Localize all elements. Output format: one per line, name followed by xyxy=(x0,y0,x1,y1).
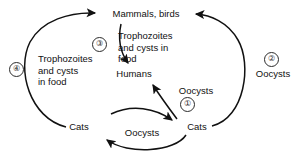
route-marker-3-icon: ③ xyxy=(92,37,107,52)
node-cats-right: Cats xyxy=(178,121,216,133)
edge-label-oocysts-center: Oocysts xyxy=(172,85,220,97)
route-marker-4-icon: ④ xyxy=(9,62,24,77)
edge-label-trophozoites-cysts-in-food-left: Trophozoites and cysts in food xyxy=(38,53,110,88)
transmission-cycle-diagram: Mammals, birds Humans Cats Cats Trophozo… xyxy=(0,0,300,165)
edge-label-oocysts-bottom: Oocysts xyxy=(116,127,168,139)
edge-label-oocysts-right: Oocysts xyxy=(250,68,296,80)
node-mammals-birds: Mammals, birds xyxy=(106,8,186,20)
route-marker-1-icon: ① xyxy=(180,97,195,112)
node-humans: Humans xyxy=(106,68,162,80)
edge-label-trophozoites-cysts-in-food-center: Trophozoites and cysts in food xyxy=(118,30,196,65)
arrow-route-2-cats-to-mammals xyxy=(196,14,245,126)
route-marker-2-icon: ② xyxy=(264,52,279,67)
arrow-humans-to-cats-right xyxy=(111,108,172,120)
node-cats-left: Cats xyxy=(60,121,98,133)
